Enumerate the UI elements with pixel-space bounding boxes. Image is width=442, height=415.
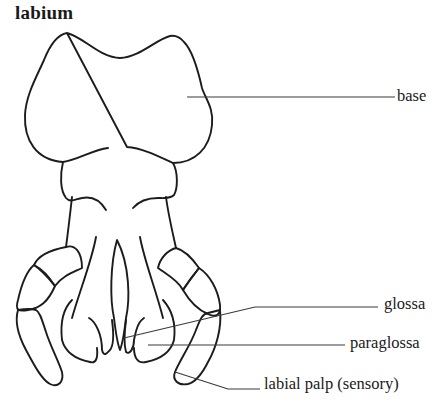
labium-illustration: [0, 0, 442, 415]
labial-palp-leader-line: [175, 372, 260, 389]
left-palp-segment-1: [34, 246, 82, 286]
right-side: [166, 197, 176, 248]
left-paraglossa-shape: [61, 300, 97, 362]
right-palp-segment-2: [183, 268, 220, 316]
label-base: base: [397, 88, 426, 105]
label-glossa: glossa: [384, 296, 425, 313]
middle-segment-right: [133, 163, 177, 208]
left-glossa-lobe: [89, 318, 113, 354]
diagram-title: labium: [15, 2, 73, 24]
right-inner-line: [140, 237, 163, 318]
left-palp-segment-3: [17, 309, 63, 385]
label-labial-palp: labial palp (sensory): [264, 376, 399, 393]
middle-segment: [61, 162, 106, 210]
base-shape: [25, 33, 212, 163]
left-palp-segment-2: [17, 265, 55, 311]
left-side: [66, 197, 72, 247]
label-paraglossa: paraglossa: [350, 335, 420, 352]
right-palp-segment-1: [158, 248, 199, 290]
